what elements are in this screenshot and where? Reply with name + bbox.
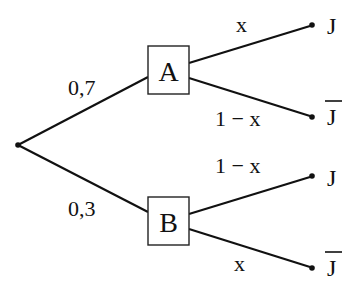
root-node-dot: [15, 142, 21, 148]
prob-b-jbar: x: [234, 251, 245, 276]
prob-a-j: x: [236, 12, 247, 37]
leaf-a-jbar: J: [325, 101, 342, 130]
leaf-dot-a-j: [309, 22, 315, 28]
leaf-dot-b-jbar: [309, 265, 315, 271]
edge-b-j: [189, 177, 310, 214]
prob-b-j: 1 − x: [215, 153, 260, 178]
prob-root-a: 0,7: [68, 75, 96, 100]
leaf-dot-b-j: [309, 173, 315, 179]
probability-tree: A B 0,7 0,3 x 1 − x 1 − x x J J J J: [0, 0, 348, 290]
prob-root-b: 0,3: [68, 196, 96, 221]
node-b: B: [148, 197, 189, 245]
node-a: A: [148, 46, 189, 94]
leaf-label-b-j: J: [327, 165, 336, 191]
node-a-label: A: [158, 56, 179, 87]
prob-a-jbar: 1 − x: [215, 106, 260, 131]
edge-a-j: [189, 26, 310, 63]
leaf-dot-a-jbar: [309, 114, 315, 120]
edge-b-jbar: [189, 229, 310, 267]
leaf-b-jbar: J: [325, 252, 342, 281]
leaf-label-b-jbar: J: [327, 255, 336, 281]
leaf-label-a-j: J: [327, 13, 336, 39]
leaf-label-a-jbar: J: [327, 104, 336, 130]
node-b-label: B: [159, 207, 178, 238]
